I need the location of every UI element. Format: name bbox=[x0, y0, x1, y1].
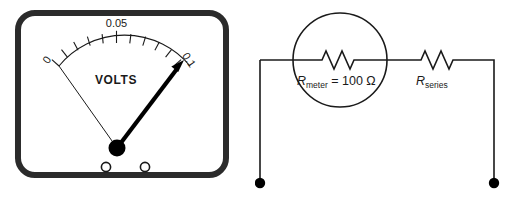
meter-resistor-label-subscript: meter bbox=[306, 80, 328, 90]
circuit-terminal-right-dot[interactable] bbox=[489, 178, 499, 188]
meter-brand-label: VOLTS bbox=[95, 73, 137, 87]
circuit-terminal-left-dot[interactable] bbox=[255, 178, 265, 188]
meter-resistor-label-value: = 100 bbox=[328, 74, 367, 88]
series-resistor-label-subscript: series bbox=[425, 80, 448, 90]
figure-root: 0 0.05 0.1 VOLTS bbox=[0, 0, 511, 198]
series-resistor-label-symbol: R bbox=[416, 74, 425, 88]
meter-scale-label-mid: 0.05 bbox=[106, 17, 127, 29]
meter-resistor-label-symbol: R bbox=[297, 74, 306, 88]
analog-voltmeter: 0 0.05 0.1 VOLTS bbox=[0, 0, 255, 198]
circuit-wire-right bbox=[459, 60, 494, 180]
meter-resistor-label-unit: Ω bbox=[366, 74, 375, 88]
meter-resistor-symbol bbox=[317, 51, 360, 69]
meter-terminal-left[interactable] bbox=[101, 162, 110, 171]
series-resistor-label: Rseries bbox=[416, 74, 448, 90]
series-resistor-symbol bbox=[416, 51, 459, 69]
meter-resistor-label: Rmeter = 100 Ω bbox=[297, 74, 376, 90]
meter-pivot-hub bbox=[109, 140, 126, 157]
meter-terminal-right[interactable] bbox=[140, 162, 149, 171]
circuit-diagram: Rmeter = 100 Ω Rseries bbox=[255, 0, 511, 198]
